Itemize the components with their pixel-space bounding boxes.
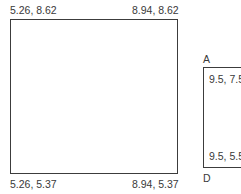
corner-label-a: A <box>203 53 210 65</box>
small-bottom-left-coord: 9.5, 5.5 <box>209 150 241 162</box>
large-bottom-left-coord: 5.26, 5.37 <box>10 178 57 190</box>
large-top-right-coord: 8.94, 8.62 <box>132 4 179 16</box>
large-bottom-right-coord: 8.94, 5.37 <box>132 178 179 190</box>
corner-label-d: D <box>203 172 211 184</box>
large-rectangle <box>10 19 178 174</box>
small-top-left-coord: 9.5, 7.5 <box>209 73 241 85</box>
large-top-left-coord: 5.26, 8.62 <box>10 4 57 16</box>
